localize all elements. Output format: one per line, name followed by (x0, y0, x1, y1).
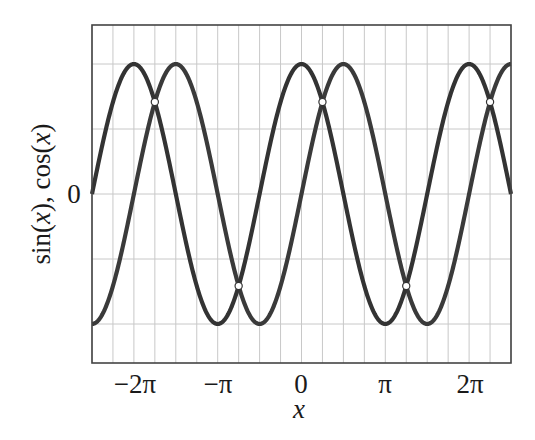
x-tick-label: 2π (456, 369, 484, 399)
y-tick-label: 0 (67, 179, 81, 209)
intersection-marker (151, 98, 158, 105)
intersection-marker (486, 98, 493, 105)
x-tick-label: −2π (114, 369, 157, 399)
intersection-marker (319, 98, 326, 105)
y-axis-label: sin(x), cos(x) (26, 124, 56, 265)
x-tick-label: π (378, 369, 392, 399)
chart: −2π −π 0 π 2π x 0 sin(x), cos(x) (0, 0, 535, 440)
intersection-marker (235, 282, 242, 289)
x-tick-label: −π (204, 369, 233, 399)
intersection-marker (403, 282, 410, 289)
x-axis-label: x (292, 394, 305, 424)
